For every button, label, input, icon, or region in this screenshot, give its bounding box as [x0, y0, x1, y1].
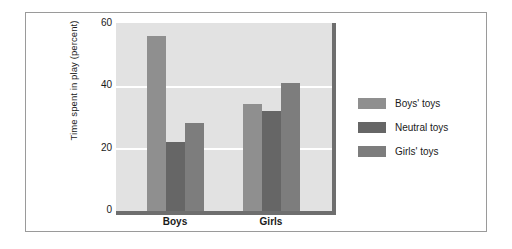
bar-boys-girlstoys[interactable] — [185, 123, 204, 211]
legend-item-neutral-toys[interactable]: Neutral toys — [358, 117, 448, 137]
legend-label-girls-toys: Girls' toys — [395, 146, 439, 157]
y-axis-title: Time spent in play (percent) — [68, 1, 79, 161]
bar-girls-boystoys[interactable] — [243, 104, 262, 211]
legend-item-girls-toys[interactable]: Girls' toys — [358, 141, 448, 161]
legend-swatch-neutral-toys — [358, 122, 386, 133]
bar-girls-girlstoys[interactable] — [281, 83, 300, 211]
bar-boys-boystoys[interactable] — [147, 36, 166, 211]
y-tick-label-40: 40 — [90, 80, 112, 90]
bar-chart: Time spent in play (percent) 60 40 20 0 — [26, 13, 488, 233]
bar-girls-neutraltoys[interactable] — [262, 111, 281, 211]
plot-area — [116, 23, 336, 215]
legend-item-boys-toys[interactable]: Boys' toys — [358, 93, 448, 113]
y-axis-tick-labels: 60 40 20 0 — [88, 13, 112, 233]
y-tick-label-20: 20 — [90, 143, 112, 153]
y-tick-label-0: 0 — [90, 205, 112, 215]
legend-swatch-boys-toys — [358, 98, 386, 109]
legend-label-neutral-toys: Neutral toys — [395, 122, 448, 133]
legend: Boys' toys Neutral toys Girls' toys — [358, 93, 448, 165]
legend-label-boys-toys: Boys' toys — [395, 98, 440, 109]
legend-swatch-girls-toys — [358, 146, 386, 157]
bar-group-girls — [236, 23, 306, 211]
x-axis-label-boys: Boys — [140, 216, 210, 227]
figure-frame: Time spent in play (percent) 60 40 20 0 — [25, 12, 487, 232]
x-axis-label-girls: Girls — [236, 216, 306, 227]
bar-group-boys — [140, 23, 210, 211]
y-tick-label-60: 60 — [90, 18, 112, 28]
bar-boys-neutraltoys[interactable] — [166, 142, 185, 211]
